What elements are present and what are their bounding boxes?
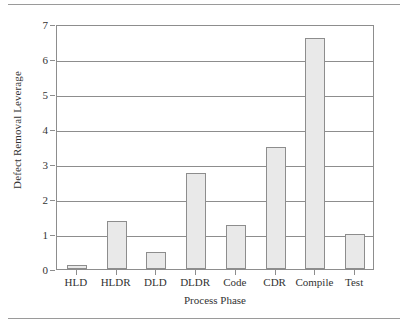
x-axis-title: Process Phase <box>56 294 374 306</box>
x-axis-tick-mark <box>354 270 355 275</box>
x-axis-tick-mark <box>155 270 156 275</box>
y-axis-tick-label: 6 <box>0 54 48 66</box>
y-axis-tick-label: 0 <box>0 264 48 276</box>
plot-area <box>56 25 374 270</box>
x-axis-tick-label: Code <box>223 276 246 288</box>
y-axis-tick-label: 4 <box>0 124 48 136</box>
x-axis-tick-label: HLD <box>65 276 88 288</box>
bottom-divider-rule <box>8 318 400 319</box>
x-axis-tick-label: DLDR <box>180 276 210 288</box>
x-axis-tick-mark <box>275 270 276 275</box>
x-axis-tick-mark <box>314 270 315 275</box>
y-axis-tick-label: 3 <box>0 159 48 171</box>
y-axis-tick-label: 2 <box>0 194 48 206</box>
figure-container: Defect Removal Leverage 01234567 HLDHLDR… <box>0 0 408 323</box>
bar-series <box>57 26 373 269</box>
x-axis-tick-mark <box>195 270 196 275</box>
y-axis-tick-mark <box>50 25 55 26</box>
y-axis-tick-label: 1 <box>0 229 48 241</box>
y-axis-tick-label: 7 <box>0 19 48 31</box>
x-axis-tick-label: CDR <box>263 276 286 288</box>
y-axis-tick-mark <box>50 95 55 96</box>
bar <box>67 265 87 269</box>
y-axis-tick-mark <box>50 200 55 201</box>
y-axis-tick-mark <box>50 270 55 271</box>
y-axis-tick-mark <box>50 165 55 166</box>
bar <box>305 38 325 269</box>
x-axis-title-text: Process Phase <box>184 294 246 306</box>
x-axis-tick-label: Test <box>345 276 363 288</box>
top-divider-rule <box>8 4 400 5</box>
y-axis-tick-mark <box>50 130 55 131</box>
bar <box>226 225 246 269</box>
x-axis-tick-mark <box>235 270 236 275</box>
x-axis-tick-label: HLDR <box>101 276 131 288</box>
bar <box>146 252 166 269</box>
y-axis-tick-mark <box>50 235 55 236</box>
x-axis-tick-mark <box>116 270 117 275</box>
y-axis-tick-label: 5 <box>0 89 48 101</box>
bar <box>266 147 286 270</box>
bar <box>186 173 206 269</box>
x-axis-tick-label: Compile <box>295 276 333 288</box>
x-axis-tick-label: DLD <box>144 276 167 288</box>
y-axis-tick-mark <box>50 60 55 61</box>
bar <box>345 234 365 269</box>
bar <box>107 221 127 269</box>
y-axis-tick-group: 01234567 <box>0 0 56 323</box>
x-axis-tick-mark <box>76 270 77 275</box>
